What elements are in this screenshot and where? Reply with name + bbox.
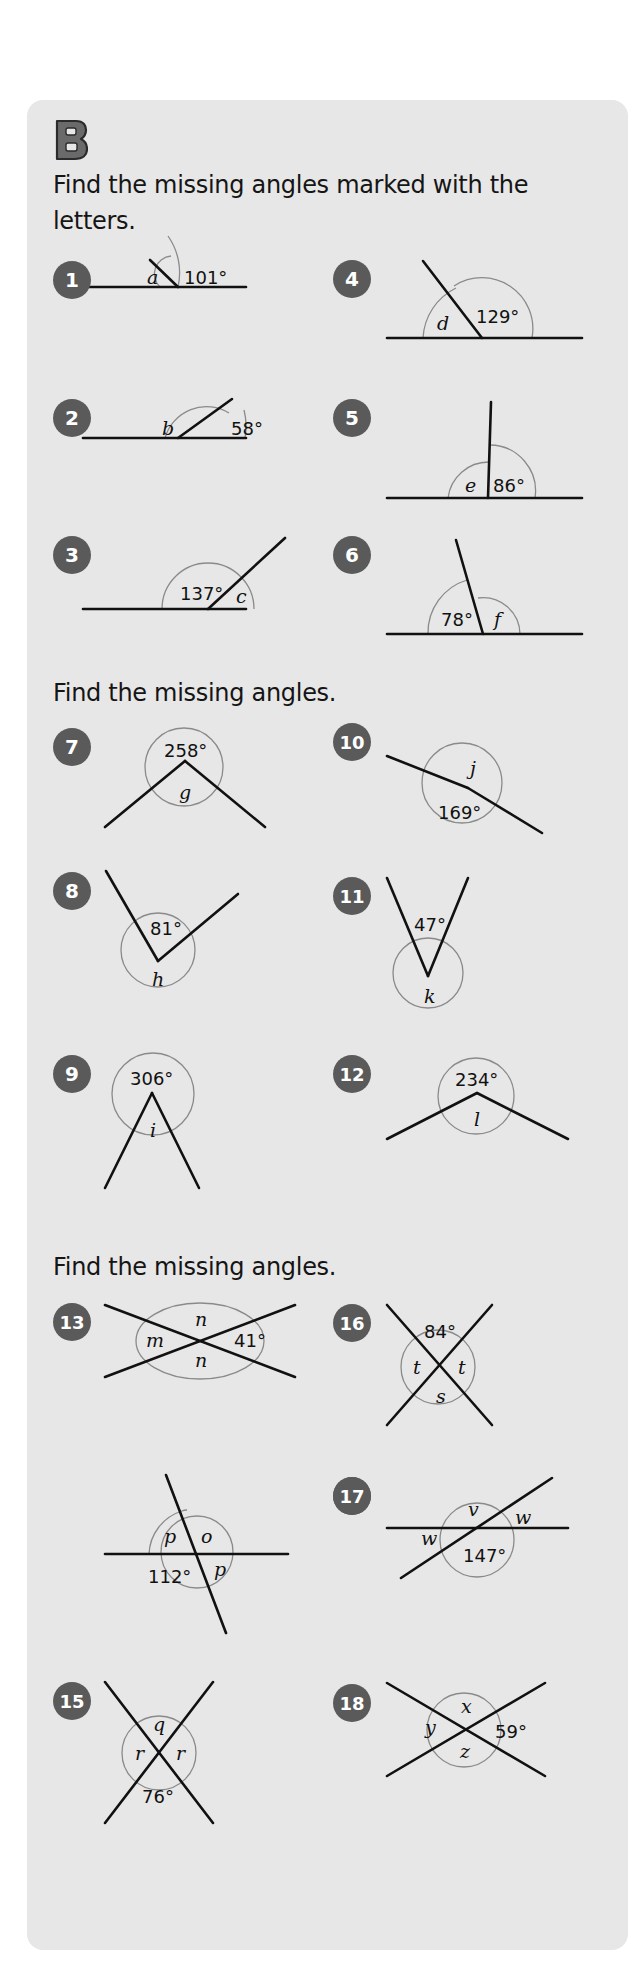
svg-text:8: 8 bbox=[65, 879, 79, 903]
diagram-line bbox=[106, 871, 158, 961]
problem-13: nm41°n13 bbox=[53, 1303, 295, 1379]
diagram-line bbox=[105, 1093, 152, 1188]
unknown-angle-label: o bbox=[201, 1525, 212, 1547]
known-angle-label: 137° bbox=[180, 583, 223, 604]
known-angle-label: 86° bbox=[493, 475, 525, 496]
unknown-angle-label: m bbox=[146, 1329, 164, 1351]
unknown-angle-label: s bbox=[436, 1385, 446, 1407]
svg-text:10: 10 bbox=[339, 732, 364, 753]
unknown-angle-label: v bbox=[468, 1498, 479, 1520]
unknown-angle-label: p bbox=[164, 1525, 176, 1547]
svg-text:7: 7 bbox=[65, 735, 79, 759]
problem-14: po112°p14 bbox=[105, 1475, 371, 1633]
known-angle-label: 169° bbox=[438, 802, 481, 823]
known-angle-label: 101° bbox=[184, 267, 227, 288]
svg-text:4: 4 bbox=[345, 267, 359, 291]
angle-arc bbox=[182, 1510, 187, 1511]
problem-8: 81°h8 bbox=[53, 871, 238, 990]
svg-text:16: 16 bbox=[339, 1313, 364, 1334]
problem-12: 234°l12 bbox=[333, 1055, 568, 1139]
unknown-angle-label: b bbox=[162, 417, 174, 439]
known-angle-label: 258° bbox=[164, 740, 207, 761]
svg-text:5: 5 bbox=[345, 406, 359, 430]
unknown-angle-label: g bbox=[179, 781, 191, 803]
question-number-badge: 16 bbox=[333, 1304, 371, 1342]
unknown-angle-label: e bbox=[465, 474, 476, 496]
known-angle-label: 147° bbox=[463, 1545, 506, 1566]
problem-15: qrr76°15 bbox=[53, 1682, 213, 1823]
problem-6: 78°f6 bbox=[333, 536, 582, 634]
unknown-angle-label: p bbox=[214, 1558, 226, 1580]
svg-text:2: 2 bbox=[65, 406, 79, 430]
svg-text:11: 11 bbox=[339, 886, 364, 907]
unknown-angle-label: d bbox=[437, 312, 449, 334]
question-number-badge: 11 bbox=[333, 877, 371, 915]
diagram-line bbox=[488, 402, 491, 498]
question-number-badge: 3 bbox=[53, 536, 91, 574]
question-number-badge: 10 bbox=[333, 723, 371, 761]
known-angle-label: 59° bbox=[495, 1721, 527, 1742]
problem-1: a101°1 bbox=[53, 236, 246, 299]
svg-text:18: 18 bbox=[339, 1693, 364, 1714]
problem-16: 84°tts16 bbox=[333, 1304, 492, 1425]
svg-text:12: 12 bbox=[339, 1064, 364, 1085]
unknown-angle-label: r bbox=[176, 1742, 187, 1764]
diagram-line bbox=[477, 1093, 568, 1139]
known-angle-label: 76° bbox=[142, 1786, 174, 1807]
question-number-badge: 1 bbox=[53, 261, 91, 299]
unknown-angle-label: w bbox=[421, 1527, 437, 1549]
known-angle-label: 41° bbox=[234, 1330, 266, 1351]
unknown-angle-label: t bbox=[413, 1356, 421, 1378]
known-angle-label: 234° bbox=[455, 1069, 498, 1090]
known-angle-label: 81° bbox=[150, 918, 182, 939]
diagram-line bbox=[423, 261, 482, 338]
unknown-angle-label: k bbox=[424, 985, 436, 1007]
unknown-angle-label: n bbox=[195, 1349, 207, 1371]
known-angle-label: 112° bbox=[148, 1566, 191, 1587]
unknown-angle-label: i bbox=[150, 1119, 156, 1141]
known-angle-label: 84° bbox=[424, 1321, 456, 1342]
unknown-angle-label: x bbox=[461, 1695, 472, 1717]
unknown-angle-label: y bbox=[424, 1716, 436, 1738]
diagram-line bbox=[185, 761, 265, 827]
problem-3: 137°c3 bbox=[53, 536, 285, 609]
question-number-badge: 17 bbox=[333, 1477, 371, 1515]
question-number-badge: 5 bbox=[333, 399, 371, 437]
known-angle-label: 78° bbox=[441, 609, 473, 630]
unknown-angle-label: f bbox=[492, 608, 504, 630]
svg-text:15: 15 bbox=[59, 1691, 84, 1712]
known-angle-label: 58° bbox=[231, 418, 263, 439]
question-number-badge: 6 bbox=[333, 536, 371, 574]
question-number-badge: 7 bbox=[53, 728, 91, 766]
svg-text:6: 6 bbox=[345, 543, 359, 567]
known-angle-label: 129° bbox=[476, 306, 519, 327]
problem-7: 258°g7 bbox=[53, 728, 265, 827]
problem-9: 306°i9 bbox=[53, 1053, 199, 1188]
svg-text:9: 9 bbox=[65, 1062, 79, 1086]
unknown-angle-label: r bbox=[135, 1742, 146, 1764]
question-number-badge: 12 bbox=[333, 1055, 371, 1093]
problem-2: b58°2 bbox=[53, 399, 263, 439]
diagram-line bbox=[387, 756, 468, 788]
unknown-angle-label: a bbox=[147, 266, 158, 288]
unknown-angle-label: z bbox=[459, 1740, 471, 1762]
question-number-badge: 4 bbox=[333, 260, 371, 298]
question-number-badge: 15 bbox=[53, 1682, 91, 1720]
question-number-badge: 9 bbox=[53, 1055, 91, 1093]
problem-10: j169°10 bbox=[333, 723, 542, 833]
known-angle-label: 47° bbox=[414, 914, 446, 935]
question-number-badge: 18 bbox=[333, 1684, 371, 1722]
unknown-angle-label: t bbox=[458, 1356, 466, 1378]
unknown-angle-label: j bbox=[466, 757, 476, 779]
diagram-line bbox=[178, 399, 232, 438]
svg-text:13: 13 bbox=[59, 1312, 84, 1333]
svg-text:1: 1 bbox=[65, 268, 79, 292]
unknown-angle-label: c bbox=[236, 585, 247, 607]
svg-text:3: 3 bbox=[65, 543, 79, 567]
problem-11: 47°k11 bbox=[333, 877, 468, 1008]
unknown-angle-label: q bbox=[153, 1713, 165, 1735]
unknown-angle-label: w bbox=[515, 1506, 531, 1528]
unknown-angle-label: l bbox=[474, 1108, 480, 1130]
question-number-badge: 8 bbox=[53, 872, 91, 910]
question-number-badge: 13 bbox=[53, 1303, 91, 1341]
